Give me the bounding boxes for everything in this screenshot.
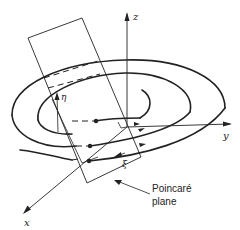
- poincare-diagram: z y x η ξ: [0, 0, 240, 230]
- z-axis: [125, 12, 130, 127]
- x-axis-label: x: [24, 217, 30, 228]
- annotation-line2: plane: [152, 196, 177, 207]
- y-axis-label: y: [222, 130, 229, 141]
- eta-label: η: [61, 92, 67, 102]
- annotation-pointer: [117, 181, 150, 194]
- z-axis-label: z: [132, 11, 139, 22]
- annotation-line1: Poincaré: [152, 183, 192, 194]
- y-axis: [127, 122, 232, 128]
